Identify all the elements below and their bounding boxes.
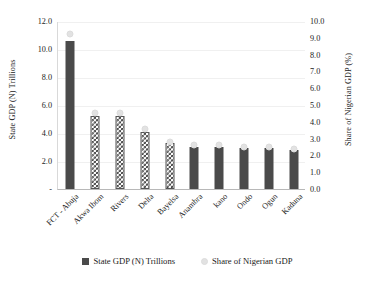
- bar-group[interactable]: [281, 22, 306, 189]
- right-tick-label: 10.0: [310, 18, 324, 26]
- legend-item[interactable]: Share of Nigerian GDP: [201, 256, 292, 266]
- share-marker[interactable]: [290, 145, 297, 152]
- left-axis-title: State GDP (N) Trillions: [8, 40, 17, 160]
- bar[interactable]: [264, 148, 273, 189]
- legend-circle-icon: [201, 258, 208, 265]
- right-axis-ticks: 10.09.08.07.06.05.04.03.02.01.00.0: [310, 0, 336, 288]
- left-tick-label: 8.0: [42, 74, 52, 82]
- left-tick-label: 4.0: [42, 130, 52, 138]
- right-tick-label: 8.0: [310, 52, 320, 60]
- share-marker[interactable]: [166, 138, 173, 145]
- left-tick-label: -: [49, 186, 52, 194]
- bar-group[interactable]: [207, 22, 232, 189]
- legend-label: Share of Nigerian GDP: [212, 256, 292, 266]
- plot-area: [57, 22, 305, 190]
- bar-group[interactable]: [182, 22, 207, 189]
- right-tick-label: 9.0: [310, 35, 320, 43]
- right-tick-label: 4.0: [310, 119, 320, 127]
- right-axis-title: Share of Nigerian GDP (%): [344, 40, 353, 160]
- bar-series-group: [58, 22, 305, 189]
- right-tick-label: 7.0: [310, 68, 320, 76]
- right-tick-label: 6.0: [310, 85, 320, 93]
- left-tick-label: 2.0: [42, 158, 52, 166]
- share-marker[interactable]: [92, 110, 99, 117]
- bar-group[interactable]: [157, 22, 182, 189]
- right-tick-label: 5.0: [310, 102, 320, 110]
- bar[interactable]: [289, 150, 298, 189]
- bar[interactable]: [140, 132, 149, 189]
- share-marker[interactable]: [216, 142, 223, 149]
- share-marker[interactable]: [116, 110, 123, 117]
- share-marker[interactable]: [191, 142, 198, 149]
- share-marker[interactable]: [141, 125, 148, 132]
- bar[interactable]: [66, 41, 75, 189]
- bar-group[interactable]: [232, 22, 257, 189]
- legend-square-icon: [82, 258, 89, 265]
- left-tick-label: 10.0: [38, 46, 52, 54]
- bar-group[interactable]: [132, 22, 157, 189]
- bar[interactable]: [165, 143, 174, 189]
- left-tick-label: 12.0: [38, 18, 52, 26]
- share-marker[interactable]: [67, 31, 74, 38]
- left-axis-ticks: 12.010.08.06.04.02.0-: [26, 0, 52, 288]
- bar-group[interactable]: [108, 22, 133, 189]
- bar[interactable]: [115, 116, 124, 189]
- bar[interactable]: [215, 147, 224, 189]
- bar[interactable]: [91, 116, 100, 189]
- bar[interactable]: [239, 148, 248, 189]
- legend-item[interactable]: State GDP (N) Trillions: [82, 256, 175, 266]
- left-tick-label: 6.0: [42, 102, 52, 110]
- bar-group[interactable]: [83, 22, 108, 189]
- bar-group[interactable]: [58, 22, 83, 189]
- chart-legend: State GDP (N) TrillionsShare of Nigerian…: [0, 256, 375, 266]
- chart-container: State GDP (N) Trillions Share of Nigeria…: [0, 0, 375, 288]
- right-tick-label: 1.0: [310, 169, 320, 177]
- legend-label: State GDP (N) Trillions: [93, 256, 175, 266]
- bar[interactable]: [190, 147, 199, 189]
- share-marker[interactable]: [240, 144, 247, 151]
- right-tick-label: 2.0: [310, 152, 320, 160]
- right-tick-label: 3.0: [310, 136, 320, 144]
- category-axis-labels: FCT - AbujaAkwa IbomRiversDeltaBayelsaAn…: [57, 192, 305, 252]
- share-marker[interactable]: [265, 144, 272, 151]
- bar-group[interactable]: [256, 22, 281, 189]
- right-tick-label: 0.0: [310, 186, 320, 194]
